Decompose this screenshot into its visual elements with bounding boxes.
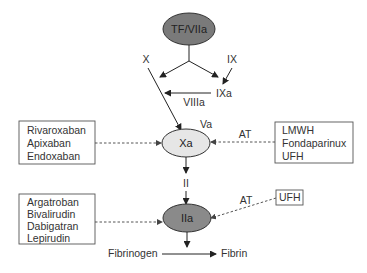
drug-label: Bivalirudin xyxy=(27,208,76,220)
edge-ix-to-ixa xyxy=(223,68,232,84)
factor-x-label: X xyxy=(142,53,149,65)
fibrin-label: Fibrin xyxy=(221,247,247,259)
node-xa: Xa xyxy=(162,129,210,157)
edge-tf-to-x xyxy=(160,61,189,77)
box-iia-direct-inhibitors: Argatroban Bivalirudin Dabigatran Lepiru… xyxy=(19,194,95,244)
fibrinogen-label: Fibrinogen xyxy=(108,247,158,259)
node-iia: IIa xyxy=(163,204,211,232)
drug-label: Rivaroxaban xyxy=(27,124,86,136)
box-xa-indirect-inhibitors: LMWH Fondaparinux UFH xyxy=(275,122,353,163)
factor-ii-label: II xyxy=(183,177,189,189)
drug-label: LMWH xyxy=(282,124,314,136)
coagulation-diagram: TF/VIIa X IX IXa VIIIa Xa Va II IIa Fibr… xyxy=(0,0,367,273)
drug-label: UFH xyxy=(282,150,304,162)
drug-label: UFH xyxy=(279,191,301,203)
drug-label: Fondaparinux xyxy=(282,137,347,149)
edge-tf-to-ix xyxy=(189,61,218,77)
factor-ixa-label: IXa xyxy=(216,87,232,99)
drug-label: Argatroban xyxy=(27,196,79,208)
edge-x-to-xa xyxy=(148,68,181,130)
node-xa-label: Xa xyxy=(179,137,193,149)
node-tf-viia-label: TF/VIIa xyxy=(171,23,208,35)
node-tf-viia: TF/VIIa xyxy=(163,13,215,45)
box-iia-indirect-inhibitors: UFH xyxy=(276,190,303,205)
factor-viiia-label: VIIIa xyxy=(183,96,205,108)
factor-va-label: Va xyxy=(200,118,212,130)
box-xa-direct-inhibitors: Rivaroxaban Apixaban Endoxaban xyxy=(19,121,95,164)
factor-ix-label: IX xyxy=(227,53,237,65)
drug-label: Dabigatran xyxy=(27,220,79,232)
at-label-iia: AT xyxy=(240,194,253,206)
drug-label: Endoxaban xyxy=(27,150,80,162)
node-iia-label: IIa xyxy=(181,212,194,224)
drug-label: Apixaban xyxy=(27,137,71,149)
drug-label: Lepirudin xyxy=(27,232,70,244)
at-label-xa: AT xyxy=(239,128,252,140)
